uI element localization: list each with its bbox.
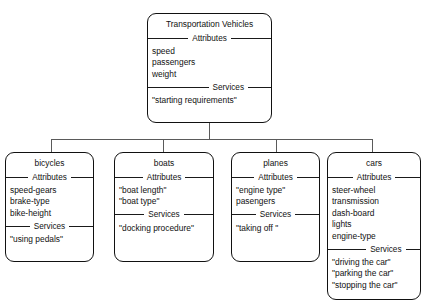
attribute-item: transmission [332,196,420,207]
class-title: planes [232,156,319,170]
separator-rule-right [69,226,93,227]
service-item: "starting requirements" [152,95,271,106]
separator-rule-left [6,226,30,227]
attribute-item: "engine type" [236,185,319,196]
service-item: "using pedals" [10,234,93,245]
attribute-item: speed-gears [10,185,93,196]
attribute-item: pasengers [236,196,319,207]
services-label: Services [34,221,65,232]
connector-root-stem [209,123,210,140]
services-label: Services [213,82,244,93]
separator-rule-left [232,177,254,178]
services-list: "taking off " [232,222,319,234]
attributes-label: Attributes [357,172,392,183]
attributes-list: speed-gears brake-type bike-height [6,184,93,219]
attribute-item: lights [332,219,420,230]
separator-rule-right [71,177,93,178]
attributes-label: Attributes [258,172,293,183]
separator-rule-right [297,177,319,178]
attributes-separator: Attributes [148,32,271,44]
separator-rule-right [406,249,420,250]
separator-rule-right [231,38,271,39]
services-separator: Services [115,209,213,221]
separator-rule-left [148,87,209,88]
services-list: "using pedals" [6,233,93,245]
attribute-item: steer-wheel [332,185,420,196]
services-separator: Services [148,81,271,93]
services-separator: Services [6,220,93,232]
class-box-boats[interactable]: boats Attributes "boat length" "boat typ… [114,152,214,262]
attributes-separator: Attributes [115,171,213,183]
service-item: "driving the car" [332,257,420,268]
separator-rule-left [6,177,28,178]
attribute-item: speed [152,46,271,57]
attributes-separator: Attributes [232,171,319,183]
attribute-item: engine-type [332,231,420,242]
separator-rule-right [395,177,420,178]
separator-rule-left [115,214,144,215]
class-title: cars [328,156,420,170]
attribute-item: bike-height [10,208,93,219]
separator-rule-right [295,214,319,215]
separator-rule-left [232,214,256,215]
connector-drop-cars [372,139,373,153]
services-label: Services [148,209,179,220]
separator-rule-right [185,177,213,178]
class-box-transportation-vehicles[interactable]: Transportation Vehicles Attributes speed… [147,13,272,123]
service-item: "stopping the car" [332,280,420,291]
attributes-separator: Attributes [328,171,420,183]
services-label: Services [370,244,401,255]
separator-rule-left [115,177,143,178]
services-list: "driving the car" "parking the car" "sto… [328,256,420,291]
connector-drop-planes [276,139,277,153]
class-title: Transportation Vehicles [148,17,271,31]
services-label: Services [260,209,291,220]
attribute-item: brake-type [10,196,93,207]
service-item: "docking procedure" [119,223,213,234]
service-item: "parking the car" [332,268,420,279]
services-list: "starting requirements" [148,94,271,106]
services-separator: Services [328,243,420,255]
attributes-separator: Attributes [6,171,93,183]
attribute-item: "boat type" [119,196,213,207]
attribute-item: dash-board [332,208,420,219]
separator-rule-right [248,87,271,88]
separator-rule-left [328,249,366,250]
class-box-cars[interactable]: cars Attributes steer-wheel transmission… [327,152,421,300]
attribute-item: weight [152,69,271,80]
diagram-canvas: Transportation Vehicles Attributes speed… [0,0,428,305]
attributes-list: "boat length" "boat type" [115,184,213,208]
class-title: boats [115,156,213,170]
attributes-label: Attributes [32,172,67,183]
service-item: "taking off " [236,223,319,234]
attribute-item: "boat length" [119,185,213,196]
class-box-planes[interactable]: planes Attributes "engine type" pasenger… [231,152,320,262]
services-separator: Services [232,209,319,221]
attributes-label: Attributes [147,172,182,183]
separator-rule-right [184,214,213,215]
services-list: "docking procedure" [115,222,213,234]
class-title: bicycles [6,156,93,170]
attribute-item: passengers [152,57,271,68]
class-box-bicycles[interactable]: bicycles Attributes speed-gears brake-ty… [5,152,94,262]
separator-rule-left [148,38,188,39]
attributes-list: speed passengers weight [148,45,271,80]
attributes-list: steer-wheel transmission dash-board ligh… [328,184,420,242]
attributes-label: Attributes [192,33,227,44]
attributes-list: "engine type" pasengers [232,184,319,208]
separator-rule-left [328,177,353,178]
connector-drop-bicycles [51,139,52,153]
connector-horizontal-bus [51,139,373,140]
connector-drop-boats [163,139,164,153]
